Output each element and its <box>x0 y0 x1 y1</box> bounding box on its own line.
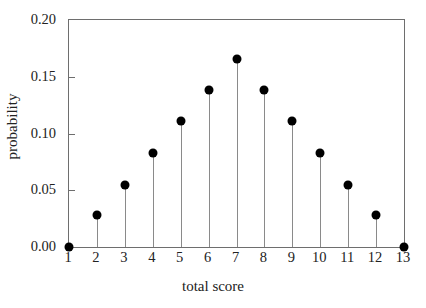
y-axis-tick <box>69 190 75 191</box>
stem-line <box>292 121 293 247</box>
x-axis-tick-label: 11 <box>340 250 354 265</box>
x-axis-tick-label: 7 <box>232 250 239 265</box>
y-axis-tick-label: 0.00 <box>0 239 56 254</box>
x-axis-tick-label: 8 <box>260 250 267 265</box>
y-axis-tick-label: 0.20 <box>0 12 56 27</box>
x-axis-tick-label: 2 <box>92 250 99 265</box>
stem-line <box>237 59 238 247</box>
data-point <box>120 180 129 189</box>
y-axis-title: probability <box>4 67 21 187</box>
chart-figure: 0.000.050.100.150.20 12345678910111213 t… <box>0 0 426 308</box>
stem-line <box>153 153 154 247</box>
x-axis-tick-label: 12 <box>368 250 383 265</box>
y-axis-tick <box>69 134 75 135</box>
stem-line <box>320 153 321 247</box>
data-point <box>92 211 101 220</box>
data-point <box>344 180 353 189</box>
data-point <box>316 148 325 157</box>
stem-line <box>264 90 265 247</box>
x-axis-title: total score <box>0 278 426 295</box>
stem-line <box>181 121 182 247</box>
data-point <box>260 86 269 95</box>
x-axis-tick-label: 3 <box>120 250 127 265</box>
x-axis-tick-label: 10 <box>312 250 327 265</box>
stem-line <box>376 215 377 247</box>
plot-area <box>68 19 405 248</box>
x-axis-tick-label: 4 <box>148 250 155 265</box>
x-axis-tick-label: 5 <box>176 250 183 265</box>
data-point <box>148 148 157 157</box>
x-axis-tick-label: 9 <box>288 250 295 265</box>
stem-line <box>348 185 349 247</box>
y-axis-tick <box>69 77 75 78</box>
stem-line <box>209 90 210 247</box>
stem-line <box>125 185 126 247</box>
x-axis-tick-label: 6 <box>204 250 211 265</box>
data-point <box>288 117 297 126</box>
data-point <box>232 54 241 63</box>
data-point <box>372 211 381 220</box>
x-axis-tick-label: 13 <box>396 250 411 265</box>
x-axis-tick-label: 1 <box>64 250 71 265</box>
stem-line <box>97 215 98 247</box>
data-point <box>204 86 213 95</box>
x-axis-tick-labels: 12345678910111213 <box>68 250 405 270</box>
data-point <box>176 117 185 126</box>
